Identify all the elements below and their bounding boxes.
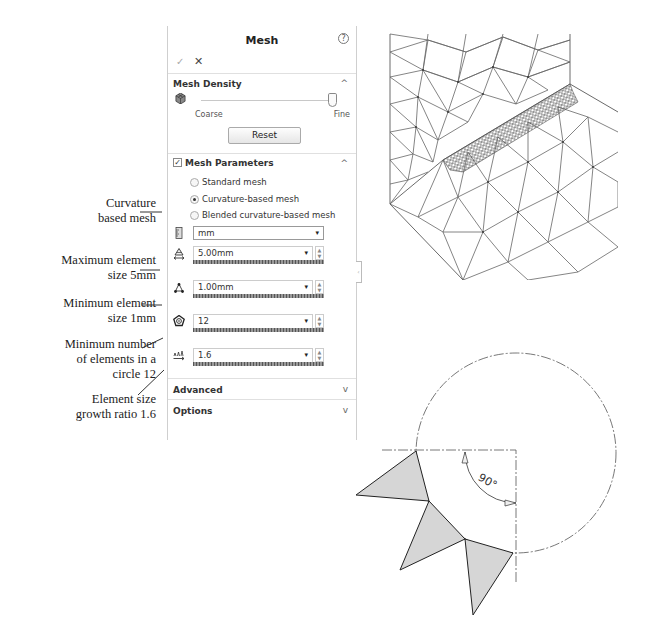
ok-checkmark-icon[interactable]: ✓ bbox=[176, 56, 184, 67]
annotation-growth-ratio: Element size growth ratio 1.6 bbox=[76, 392, 156, 422]
thumbwheel-slider[interactable] bbox=[193, 362, 324, 366]
annotation-max-element-size: Maximum element size 5mm bbox=[61, 253, 156, 283]
min-elements-in-circle-icon bbox=[173, 315, 185, 327]
advanced-section-header[interactable]: Advanced v bbox=[168, 379, 356, 400]
annotation-min-element-size: Minimum element size 1mm bbox=[63, 296, 156, 326]
ruler-unit-icon bbox=[173, 227, 185, 239]
mesh-parameters-section: ✓ Mesh Parameters ^ Standard mesh Curvat… bbox=[168, 154, 356, 379]
mesh-density-section: Mesh Density ^ Coarse Fine Reset bbox=[168, 74, 356, 154]
growth-ratio-input[interactable]: 1.6 ▾ bbox=[193, 348, 313, 362]
mesh-density-icon bbox=[175, 93, 186, 104]
fine-label: Fine bbox=[334, 110, 350, 119]
growth-ratio-field[interactable]: 1.6 ▾ ▲▼ bbox=[193, 348, 324, 370]
min-elements-in-circle-input[interactable]: 12 ▾ bbox=[193, 314, 313, 328]
chevron-up-icon[interactable]: ^ bbox=[340, 158, 348, 168]
annotation-min-elements-in-circle: Minimum number of elements in a circle 1… bbox=[65, 337, 156, 382]
min-elements-in-circle-value: 12 bbox=[198, 316, 209, 326]
chevron-down-icon[interactable]: v bbox=[343, 384, 348, 394]
radio-blended-curvature-mesh[interactable]: Blended curvature-based mesh bbox=[190, 210, 335, 220]
mesh-preview-image bbox=[388, 32, 618, 280]
radio-button[interactable] bbox=[190, 178, 199, 187]
radio-curvature-based-mesh[interactable]: Curvature-based mesh bbox=[190, 194, 299, 204]
dropdown-arrow-icon[interactable]: ▾ bbox=[304, 281, 308, 294]
spinner-arrows[interactable]: ▲▼ bbox=[315, 348, 324, 362]
max-element-size-icon bbox=[173, 248, 185, 260]
max-element-size-input[interactable]: 5.00mm ▾ bbox=[193, 246, 313, 260]
min-elements-in-circle-field[interactable]: 12 ▾ ▲▼ bbox=[193, 314, 324, 336]
unit-dropdown[interactable]: mm ▾ bbox=[193, 226, 324, 240]
annotation-curvature-based-mesh: Curvature based mesh bbox=[98, 196, 156, 226]
panel-collapse-handle[interactable]: ‹ bbox=[356, 261, 362, 283]
reset-button[interactable]: Reset bbox=[228, 127, 301, 144]
thumbwheel-slider[interactable] bbox=[193, 294, 324, 298]
angle-label: 90° bbox=[476, 471, 499, 492]
spinner-arrows[interactable]: ▲▼ bbox=[315, 314, 324, 328]
min-element-size-icon bbox=[173, 283, 185, 295]
mesh-parameters-checkbox[interactable]: ✓ bbox=[173, 158, 182, 167]
chevron-down-icon[interactable]: v bbox=[343, 405, 348, 415]
thumbwheel-slider[interactable] bbox=[193, 328, 324, 332]
radio-standard-mesh[interactable]: Standard mesh bbox=[190, 177, 267, 187]
mesh-parameters-title: Mesh Parameters bbox=[185, 158, 274, 168]
dropdown-arrow-icon[interactable]: ▾ bbox=[304, 247, 308, 260]
mesh-property-panel: Mesh ? ✓ ✕ Mesh Density ^ Coarse Fine Re… bbox=[167, 26, 357, 440]
growth-ratio-value: 1.6 bbox=[198, 350, 212, 360]
dropdown-arrow-icon[interactable]: ▾ bbox=[304, 349, 308, 362]
unit-value: mm bbox=[198, 228, 215, 238]
coarse-label: Coarse bbox=[195, 110, 223, 119]
radio-label: Standard mesh bbox=[202, 177, 267, 187]
min-element-size-field[interactable]: 1.00mm ▾ ▲▼ bbox=[193, 280, 324, 302]
cancel-x-icon[interactable]: ✕ bbox=[194, 55, 203, 68]
advanced-title: Advanced bbox=[173, 385, 223, 395]
confirm-row: ✓ ✕ bbox=[168, 54, 356, 74]
dropdown-arrow-icon[interactable]: ▾ bbox=[315, 227, 319, 239]
min-element-size-input[interactable]: 1.00mm ▾ bbox=[193, 280, 313, 294]
mesh-density-title: Mesh Density bbox=[173, 79, 242, 89]
radio-button-selected[interactable] bbox=[190, 195, 199, 204]
spinner-arrows[interactable]: ▲▼ bbox=[315, 280, 324, 294]
radio-button[interactable] bbox=[190, 211, 199, 220]
mesh-density-header[interactable]: Mesh Density ^ bbox=[168, 74, 356, 92]
mesh-density-slider-thumb[interactable] bbox=[328, 93, 337, 107]
min-elements-circle-diagram: 90° bbox=[350, 318, 620, 618]
min-element-size-value: 1.00mm bbox=[198, 282, 234, 292]
max-element-size-value: 5.00mm bbox=[198, 248, 234, 258]
radio-label: Curvature-based mesh bbox=[202, 194, 299, 204]
thumbwheel-slider[interactable] bbox=[193, 260, 324, 264]
chevron-up-icon[interactable]: ^ bbox=[340, 78, 348, 88]
options-section-header[interactable]: Options v bbox=[168, 400, 356, 421]
radio-label: Blended curvature-based mesh bbox=[202, 210, 335, 220]
panel-title: Mesh bbox=[168, 34, 356, 47]
growth-ratio-icon bbox=[173, 350, 185, 362]
dropdown-arrow-icon[interactable]: ▾ bbox=[304, 315, 308, 328]
max-element-size-field[interactable]: 5.00mm ▾ ▲▼ bbox=[193, 246, 324, 268]
help-icon[interactable]: ? bbox=[338, 33, 349, 44]
panel-header: Mesh ? bbox=[168, 26, 356, 54]
spinner-arrows[interactable]: ▲▼ bbox=[315, 246, 324, 260]
options-title: Options bbox=[173, 406, 212, 416]
mesh-density-slider-track[interactable] bbox=[201, 100, 337, 101]
